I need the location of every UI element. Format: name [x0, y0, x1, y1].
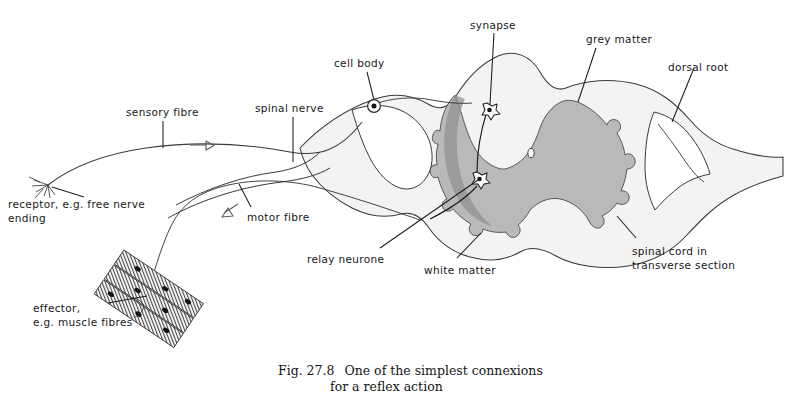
label-sensory-fibre: sensory fibre [126, 106, 199, 120]
figure-caption-line2: for a reflex action [278, 379, 543, 395]
leader-receptor [52, 187, 84, 197]
label-grey-matter: grey matter [586, 33, 652, 47]
label-relay-neurone: relay neurone [307, 253, 384, 267]
label-dorsal-root: dorsal root [668, 61, 728, 75]
dorsal-root-ganglion-cell-body [368, 100, 381, 113]
leader-cell-body [367, 72, 374, 100]
figure-caption-line1: One of the simplest connexions [344, 363, 542, 378]
muscle-fibres-effector [94, 250, 203, 348]
sensory-direction-arrow [190, 141, 214, 150]
label-motor-fibre: motor fibre [247, 211, 310, 225]
label-cell-body: cell body [334, 57, 385, 71]
central-canal [528, 148, 534, 157]
reflex-arc-figure: sensory fibre receptor, e.g. free nerve … [0, 0, 787, 412]
motor-direction-arrow [222, 204, 238, 217]
free-nerve-ending-receptor [29, 177, 55, 198]
label-spinal-nerve: spinal nerve [255, 102, 324, 116]
label-spinal-cord: spinal cord in transverse section [632, 245, 735, 272]
label-receptor: receptor, e.g. free nerve ending [8, 198, 145, 225]
label-effector: effector, e.g. muscle fibres [33, 302, 133, 329]
label-white-matter: white matter [424, 264, 496, 278]
label-synapse: synapse [470, 19, 516, 33]
figure-number: Fig. 27.8 [278, 363, 334, 378]
figure-caption: Fig. 27.8One of the simplest connexions … [278, 347, 543, 411]
